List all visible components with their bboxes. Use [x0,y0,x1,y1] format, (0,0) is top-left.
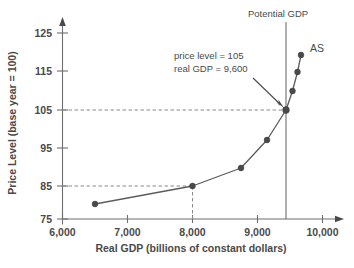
x-axis-arrowhead [335,216,344,223]
as-curve-line [95,55,301,204]
x-axis-title: Real GDP (billions of constant dollars) [95,242,286,254]
equilibrium-callout-arrow [253,78,285,109]
y-axis-arrowhead [59,17,66,26]
as-curve-chart: 125 115 105 95 85 75 6,000 7,000 8,000 9… [0,0,354,268]
y-axis-title: Price Level (base year = 100) [6,51,18,194]
data-point [264,137,270,143]
x-axis-tick-labels: 6,000 7,000 8,000 9,000 10,000 [49,226,338,238]
callout-line-2: real GDP = 9,600 [174,63,248,74]
y-tick-label-75: 75 [40,213,52,225]
data-point [92,201,98,207]
x-tick-label-8000: 8,000 [179,226,205,238]
y-tick-label-125: 125 [34,27,52,39]
x-tick-label-9000: 9,000 [244,226,270,238]
y-tick-label-105: 105 [34,104,52,116]
x-tick-label-10000: 10,000 [306,226,338,238]
callout-arrow-head [276,100,284,109]
callout-arrow-shaft [253,78,281,105]
x-tick-label-7000: 7,000 [114,226,140,238]
y-axis-tick-labels: 125 115 105 95 85 75 [34,27,52,225]
y-tick-label-115: 115 [35,65,52,77]
y-tick-label-85: 85 [40,180,52,192]
data-point [298,52,304,58]
x-axis-group [63,216,345,223]
callout-line-1: price level = 105 [174,50,243,61]
potential-gdp-label: Potential GDP [248,8,308,19]
data-point [238,165,244,171]
y-axis-group [59,17,66,219]
as-series-label: AS [310,42,324,54]
y-tick-label-95: 95 [40,142,52,154]
data-point [290,88,296,94]
x-tick-label-6000: 6,000 [49,226,75,238]
data-point [190,183,196,189]
data-point [295,69,301,75]
chart-canvas: 125 115 105 95 85 75 6,000 7,000 8,000 9… [0,0,354,268]
